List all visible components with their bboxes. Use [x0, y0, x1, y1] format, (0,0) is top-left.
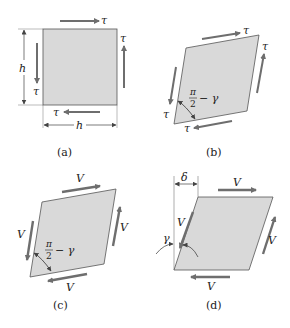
shear-arrow-bottom: [48, 274, 87, 281]
shear-arrow-left: [27, 221, 33, 260]
label-tau-bottom: τ: [53, 106, 60, 119]
label-v-right: V: [120, 221, 129, 234]
panel-d: δ V V V V γ (d): [156, 171, 277, 312]
label-v-left: V: [177, 216, 186, 229]
label-h-horizontal: h: [76, 119, 83, 132]
panel-b: τ τ τ τ π 2 − γ (b): [163, 24, 269, 159]
shear-arrow-top: [202, 33, 240, 39]
label-tau-left: τ: [33, 85, 40, 98]
label-v-right: V: [268, 234, 277, 247]
caption-c: (c): [53, 299, 68, 312]
element-rhombus: [174, 35, 259, 124]
label-h-vertical: h: [19, 62, 26, 75]
label-delta: δ: [181, 171, 188, 184]
fraction-denominator: 2: [190, 99, 196, 109]
caption-a: (a): [57, 146, 72, 159]
angle-suffix: − γ: [55, 244, 75, 257]
label-tau-top: τ: [101, 14, 108, 27]
element-parallelogram: [174, 197, 273, 270]
shear-arrow-right: [113, 207, 120, 246]
gamma-pointer-left: [156, 244, 173, 254]
fraction-numerator: π: [45, 239, 53, 249]
shear-arrow-bottom: [194, 121, 232, 128]
label-v-bottom: V: [207, 280, 216, 293]
label-tau-top: τ: [243, 24, 250, 37]
label-v-top: V: [76, 172, 85, 185]
shear-arrow-top: [62, 186, 100, 192]
element-square: [43, 29, 117, 105]
caption-b: (b): [206, 146, 222, 159]
label-gamma: γ: [163, 232, 170, 245]
panel-c: V V V V π 2 − γ (c): [17, 172, 129, 312]
angle-suffix: − γ: [199, 92, 219, 105]
panel-a: τ τ τ τ h h (a): [18, 14, 127, 159]
shear-strain-diagram: τ τ τ τ h h (a) τ τ τ τ π: [0, 0, 290, 328]
fraction-denominator: 2: [46, 251, 52, 261]
label-v-left: V: [17, 228, 26, 241]
caption-d: (d): [206, 299, 222, 312]
label-v-bottom: V: [66, 281, 75, 294]
fraction-numerator: π: [189, 87, 197, 97]
element-rhombus: [30, 189, 116, 277]
label-v-top: V: [233, 176, 242, 189]
shear-arrow-right: [257, 54, 264, 93]
label-tau-right: τ: [262, 40, 269, 53]
label-tau-left: τ: [163, 108, 170, 121]
label-tau-right: τ: [120, 32, 127, 45]
shear-arrow-left: [170, 67, 176, 104]
label-tau-bottom: τ: [184, 122, 191, 135]
